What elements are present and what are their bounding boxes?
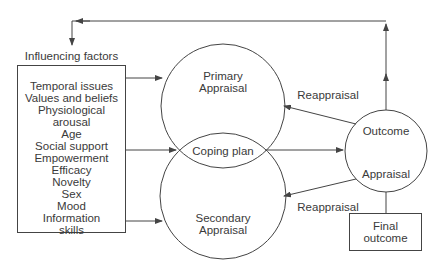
arrow-reappraisal-to-secondary [284,179,356,196]
influencing-factors-box: Temporal issues Values and beliefs Physi… [17,65,126,233]
primary-appraisal-label: Primary Appraisal [183,70,263,94]
secondary-appraisal-label: Secondary Appraisal [183,212,263,236]
factor-item: Age [18,128,125,140]
factor-item: Values and beliefs [18,92,125,104]
coping-plan-label: Coping plan [183,145,263,157]
factor-item: Sex [18,188,125,200]
factor-item: Novelty [18,176,125,188]
factor-item: Temporal issues [18,80,125,92]
reappraisal-top-label: Reappraisal [293,89,363,101]
final-outcome-box: Final outcome [349,213,422,251]
outcome-label: Outcome [350,125,422,137]
influencing-factors-title: Influencing factors [17,50,126,62]
factor-item: Efficacy [18,164,125,176]
appraisal-label: Appraisal [350,168,422,180]
factor-item: Social support [18,140,125,152]
factor-item: Empowerment [18,152,125,164]
arrow-reappraisal-to-primary [284,106,356,124]
factor-item: Physiological arousal [18,104,125,128]
factor-item: skills [18,224,125,236]
factor-item: Mood [18,200,125,212]
factor-item: Information [18,212,125,224]
reappraisal-bottom-label: Reappraisal [293,201,363,213]
